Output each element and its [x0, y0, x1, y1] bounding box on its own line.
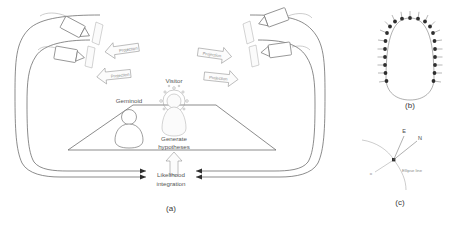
generate-hypotheses-label: Generate hypotheses — [158, 135, 190, 150]
geminoid-head — [122, 110, 137, 125]
generate-hypotheses-line1: Generate — [161, 135, 187, 142]
figure-background — [0, 0, 467, 225]
visitor-head — [167, 94, 181, 108]
likelihood-line2: integration — [157, 180, 186, 187]
north-axis-label: N — [418, 135, 422, 141]
panel-b-caption: (b) — [405, 101, 415, 110]
east-axis-label: E — [402, 128, 406, 134]
generate-hypotheses-line2: hypotheses — [158, 143, 190, 150]
panel-c-caption: (c) — [395, 198, 405, 207]
visitor-label: Visitor — [165, 77, 182, 84]
panel-a-caption: (a) — [166, 204, 176, 213]
ellipse-line-label: Ellipse line — [402, 168, 423, 173]
figure-root: Projection Projection Projection Project… — [0, 0, 467, 225]
likelihood-line1: Likelihood — [157, 171, 185, 178]
scientific-figure: Projection Projection Projection Project… — [0, 0, 467, 225]
geminoid-label: Geminoid — [116, 97, 143, 104]
projector-body — [268, 42, 292, 58]
